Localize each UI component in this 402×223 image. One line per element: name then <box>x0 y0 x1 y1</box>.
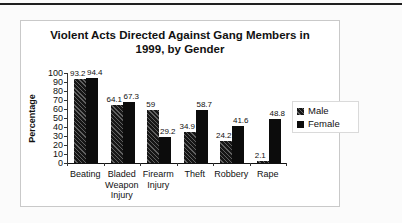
x-tick-mark-5 <box>250 163 251 166</box>
legend: MaleFemale <box>292 101 359 133</box>
y-tick-mark-30 <box>64 136 68 137</box>
x-label-rape: Rape <box>247 169 290 180</box>
x-tick-mark-3 <box>177 163 178 166</box>
chart-title: Violent Acts Directed Against Gang Membe… <box>31 28 329 56</box>
bar-male-robbery <box>220 141 232 163</box>
y-tick-mark-60 <box>64 109 68 110</box>
y-tick-mark-80 <box>64 91 68 92</box>
y-tick-mark-100 <box>64 73 68 74</box>
data-label-female-robbery: 41.6 <box>228 116 254 125</box>
y-tick-mark-40 <box>64 127 68 128</box>
data-label-female-bladed-weapon-injury: 67.3 <box>118 92 144 101</box>
y-tick-mark-20 <box>64 145 68 146</box>
y-tick-mark-50 <box>64 118 68 119</box>
y-tick-label-90: 90 <box>39 78 63 87</box>
data-label-female-firearm-injury: 29.2 <box>155 127 181 136</box>
y-tick-mark-90 <box>64 82 68 83</box>
bar-female-robbery <box>232 126 244 163</box>
x-tick-mark-1 <box>104 163 105 166</box>
y-tick-label-100: 100 <box>39 69 63 78</box>
chart-title-line-1: Violent Acts Directed Against Gang Membe… <box>31 28 329 42</box>
legend-label-female: Female <box>308 119 340 129</box>
y-tick-label-60: 60 <box>39 105 63 114</box>
y-tick-mark-70 <box>64 100 68 101</box>
bar-female-rape <box>269 119 281 163</box>
legend-marker-male-icon <box>297 108 304 115</box>
bar-male-rape <box>257 161 269 163</box>
page: Violent Acts Directed Against Gang Membe… <box>0 0 402 223</box>
x-tick-mark-6 <box>286 163 287 166</box>
y-tick-mark-10 <box>64 154 68 155</box>
y-tick-label-80: 80 <box>39 87 63 96</box>
top-divider-line <box>0 3 402 5</box>
y-tick-label-50: 50 <box>39 114 63 123</box>
y-tick-label-0: 0 <box>39 159 63 168</box>
y-tick-label-30: 30 <box>39 132 63 141</box>
data-label-female-beating: 94.4 <box>82 68 108 77</box>
bar-female-bladed-weapon-injury <box>123 102 135 163</box>
legend-item-male: Male <box>297 106 355 116</box>
plot-area: 93.264.15934.924.22.194.467.329.258.741.… <box>67 73 287 164</box>
data-label-female-theft: 58.7 <box>191 100 217 109</box>
bar-female-firearm-injury <box>159 137 171 163</box>
y-tick-label-70: 70 <box>39 96 63 105</box>
legend-label-male: Male <box>308 106 329 116</box>
y-tick-label-10: 10 <box>39 150 63 159</box>
y-axis-label: Percentage <box>27 79 38 159</box>
bar-male-theft <box>184 132 196 163</box>
y-tick-label-40: 40 <box>39 123 63 132</box>
x-tick-mark-4 <box>213 163 214 166</box>
bar-male-firearm-injury <box>147 110 159 163</box>
bar-female-theft <box>196 110 208 163</box>
chart-title-line-2: 1999, by Gender <box>31 42 329 56</box>
y-tick-label-20: 20 <box>39 141 63 150</box>
x-tick-mark-0 <box>67 163 68 166</box>
bar-female-beating <box>86 78 98 163</box>
x-tick-mark-2 <box>140 163 141 166</box>
bar-male-bladed-weapon-injury <box>111 105 123 163</box>
data-label-female-rape: 48.8 <box>264 109 290 118</box>
legend-marker-female-icon <box>297 121 304 128</box>
legend-item-female: Female <box>297 119 355 129</box>
bar-male-beating <box>74 79 86 163</box>
chart-frame: Violent Acts Directed Against Gang Membe… <box>20 20 340 207</box>
